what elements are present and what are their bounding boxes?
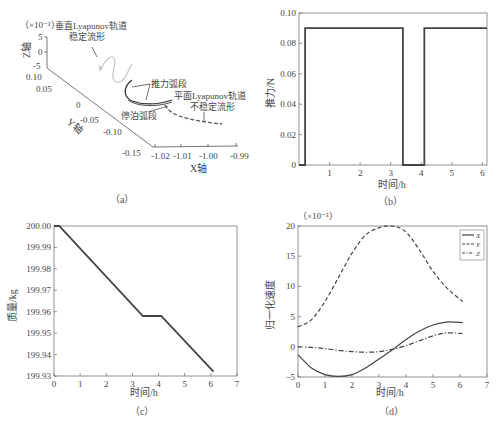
x-tick-label: 2 xyxy=(358,168,363,178)
x-tick-label: 5 xyxy=(450,168,455,178)
figure: （×10⁻³） 5 0 -5 Z轴 0.10 0.05 0 -0.05 -0.1… xyxy=(0,0,501,435)
x-tick: -0.99 xyxy=(230,151,249,161)
z-tick: -5 xyxy=(33,61,41,71)
annotation-planar-lyapunov-1: 平面Lyapunov轨道 xyxy=(174,90,246,101)
panel-c-mass-chart: 200.00199.99199.98199.97199.96199.95199.… xyxy=(7,221,240,417)
y-tick-label: 20 xyxy=(286,221,296,231)
x-tick-label: 1 xyxy=(78,379,83,389)
z-axis-label: Z轴 xyxy=(20,42,32,58)
legend-z: Z xyxy=(476,250,480,258)
x-tick-label: 0 xyxy=(296,380,301,390)
y-tick-label: −5 xyxy=(285,372,295,382)
x-tick-label: 1 xyxy=(323,380,328,390)
annotation-coast-arc: 停泊弧段 xyxy=(121,110,157,121)
panel-a-z-scale-note: （×10⁻³） xyxy=(20,20,60,30)
x-tick-label: 5 xyxy=(182,379,187,389)
annotation-planar-lyapunov-2: 不稳定流形 xyxy=(190,101,235,112)
y-tick: 0.10 xyxy=(26,72,42,82)
x-tick-label: 6 xyxy=(458,380,463,390)
x-tick-label: 3 xyxy=(388,168,393,178)
y-tick-label: 0.06 xyxy=(280,69,296,79)
annotation-vertical-lyapunov-2: 稳定流形 xyxy=(69,31,105,42)
y-tick-label: 199.98 xyxy=(26,264,51,274)
x-tick: -1.00 xyxy=(199,151,218,161)
x-tick-label: 4 xyxy=(419,168,424,178)
annotation-vertical-lyapunov-1: 垂直Lyapunov轨道 xyxy=(55,20,127,31)
legend: X Y Z xyxy=(460,230,484,260)
y-tick: 0 xyxy=(76,100,81,110)
x-tick-label: 7 xyxy=(235,379,240,389)
x-tick-label: 1 xyxy=(327,168,332,178)
panel-d-caption: （d） xyxy=(379,406,404,417)
y-tick-label: 0.02 xyxy=(280,130,296,140)
thrust-line xyxy=(299,28,487,165)
y-tick-label: 199.96 xyxy=(26,307,51,317)
x-tick-label: 2 xyxy=(104,379,109,389)
y-tick-label: 199.95 xyxy=(26,328,51,338)
annotation-thrust-arc: 推力弧段 xyxy=(151,78,187,89)
x-tick-label: 4 xyxy=(404,380,409,390)
vertical-lyapunov-stable-manifold xyxy=(100,57,132,82)
panel-b-ylabel: 推力/N xyxy=(264,78,276,108)
panel-a-3d-trajectory: （×10⁻³） 5 0 -5 Z轴 0.10 0.05 0 -0.05 -0.1… xyxy=(20,20,249,205)
x-tick-label: 5 xyxy=(431,380,436,390)
panel-c-xlabel: 时间/h xyxy=(130,386,158,398)
x-tick-label: 7 xyxy=(485,380,490,390)
y-tick: -0.15 xyxy=(122,148,141,158)
x-tick-label: 0 xyxy=(52,379,57,389)
panel-d-ylabel: 归一化速度 xyxy=(264,280,276,330)
y-tick-label: 199.94 xyxy=(26,350,51,360)
panel-c-ylabel: 质量/kg xyxy=(7,289,18,322)
x-tick: -1.01 xyxy=(173,151,192,161)
panel-b-caption: （b） xyxy=(378,196,403,207)
x-tick: -1.02 xyxy=(151,151,170,161)
panel-d-scale-note: （×10⁻³） xyxy=(298,211,338,221)
y-tick-label: 199.99 xyxy=(26,242,51,252)
y-tick-label: 199.97 xyxy=(26,285,51,295)
y-tick-label: 0.08 xyxy=(280,38,296,48)
series-z-line xyxy=(298,333,463,352)
x-axis-label: X轴 xyxy=(190,162,207,174)
y-tick: 0.05 xyxy=(36,84,52,94)
x-tick-label: 6 xyxy=(209,379,214,389)
y-tick-label: 10 xyxy=(286,281,296,291)
legend-x: X xyxy=(475,232,481,240)
y-tick: -0.10 xyxy=(103,127,122,137)
coast-arc xyxy=(128,100,172,106)
y-tick-label: 5 xyxy=(291,312,296,322)
series-y-line xyxy=(298,226,463,327)
y-tick-label: 0 xyxy=(292,160,297,170)
x-tick-label: 2 xyxy=(350,380,355,390)
x-tick-label: 6 xyxy=(480,168,485,178)
panel-d-xlabel: 时间/h xyxy=(376,386,404,398)
panel-b-thrust-chart: 00.020.040.060.080.10 123456 推力/N 时间/h （… xyxy=(264,8,487,207)
z-tick: 5 xyxy=(38,32,43,42)
panel-d-velocity-chart: （×10⁻³） 20151050−5 01234567 X Y Z 归一化速度 … xyxy=(264,211,490,417)
y-tick-label: 0.10 xyxy=(280,8,296,18)
z-tick: 0 xyxy=(38,47,43,57)
y-tick-label: 200.00 xyxy=(26,221,51,231)
y-tick: -0.05 xyxy=(80,115,99,125)
series-x-line xyxy=(298,322,463,376)
panel-a-caption: （a） xyxy=(110,194,134,205)
y-tick-label: 0 xyxy=(291,342,296,352)
y-tick-label: 199.93 xyxy=(26,371,51,381)
panel-c-caption: （c） xyxy=(130,406,154,417)
mass-line xyxy=(54,226,213,372)
y-tick-label: 0.04 xyxy=(280,99,296,109)
y-tick-label: 15 xyxy=(286,251,296,261)
panel-b-xlabel: 时间/h xyxy=(378,178,406,190)
